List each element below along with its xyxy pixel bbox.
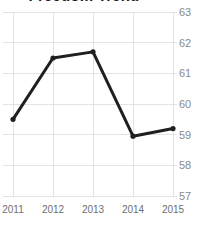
- data-point-marker: [170, 126, 175, 131]
- y-axis-tick-label: 61: [179, 67, 191, 79]
- line-chart-svg: [0, 0, 200, 225]
- plot-area: [0, 0, 200, 225]
- y-axis-tick-label: 60: [179, 98, 191, 110]
- horizontal-gridlines: [3, 12, 177, 196]
- y-axis-tick-label: 59: [179, 129, 191, 141]
- x-axis-tick-label: 2011: [2, 204, 24, 215]
- y-axis-tick-label: 63: [179, 6, 191, 18]
- y-axis-tick-label: 57: [179, 190, 191, 202]
- x-axis-tick-label: 2014: [122, 204, 144, 215]
- x-axis-tick-label: 2013: [82, 204, 104, 215]
- y-axis-tick-label: 62: [179, 37, 191, 49]
- x-axis-tick-label: 2012: [42, 204, 64, 215]
- data-point-marker: [130, 134, 135, 139]
- data-point-marker: [10, 117, 15, 122]
- chart-container: Freedom Trend 57585960616263 20112012201…: [0, 0, 200, 225]
- y-axis-tick-label: 58: [179, 159, 191, 171]
- x-axis-tick-label: 2015: [162, 204, 184, 215]
- data-point-marker: [50, 55, 55, 60]
- data-point-marker: [90, 49, 95, 54]
